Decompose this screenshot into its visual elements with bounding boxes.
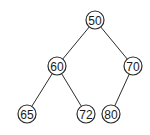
tree-node-root: 50 <box>86 11 104 29</box>
tree-node-left: 60 <box>48 57 66 75</box>
edges <box>27 20 133 114</box>
tree-node-right: 70 <box>124 57 142 75</box>
tree-node-left-left: 65 <box>18 105 36 123</box>
node-label: 70 <box>126 60 140 74</box>
node-label: 65 <box>20 108 34 122</box>
node-label: 50 <box>88 14 102 28</box>
tree-node-right-left: 80 <box>102 105 120 123</box>
node-label: 80 <box>104 108 118 122</box>
node-label: 72 <box>79 108 93 122</box>
binary-tree-diagram: 50 60 70 65 72 80 <box>0 0 150 135</box>
tree-node-left-right: 72 <box>77 105 95 123</box>
node-label: 60 <box>50 60 64 74</box>
nodes: 50 60 70 65 72 80 <box>18 11 142 123</box>
